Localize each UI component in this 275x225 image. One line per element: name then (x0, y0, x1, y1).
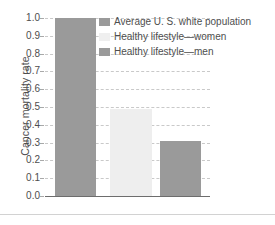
x-axis-baseline (45, 196, 210, 197)
bar-2 (110, 109, 152, 196)
y-axis-tick-label: 0.2 (26, 155, 40, 165)
legend-item-1: Average U. S. white population (99, 14, 271, 29)
legend-item-3: Healthy lifestyle—men (99, 44, 271, 59)
y-axis-tick-label: 0.5 (26, 102, 40, 112)
y-axis-tick-label: 0.1 (26, 173, 40, 183)
y-axis-tick-label: 0.4 (26, 120, 40, 130)
bar-3 (160, 141, 201, 196)
legend-swatch-icon (99, 48, 110, 56)
y-axis-tick-mark (40, 125, 44, 126)
legend-label: Average U. S. white population (114, 17, 251, 27)
y-axis-tick-label: 0.9 (26, 31, 40, 41)
legend-label: Healthy lifestyle—men (114, 47, 213, 57)
y-axis-tick-label: 0.8 (26, 49, 40, 59)
page-separator-rule (0, 214, 275, 215)
y-axis-tick-label: 0.3 (26, 138, 40, 148)
legend-label: Healthy lifestyle—women (114, 32, 226, 42)
y-axis-tick-label: 0.0 (26, 191, 40, 201)
legend-item-2: Healthy lifestyle—women (99, 29, 271, 44)
y-axis-tick-mark (40, 89, 44, 90)
cancer-mortality-bar-chart: Cancer mortality rate 0.00.10.20.30.40.5… (0, 0, 275, 225)
y-axis-tick-mark (40, 178, 44, 179)
y-axis-tick-mark (40, 143, 44, 144)
y-axis-tick-mark (40, 71, 44, 72)
y-axis-tick-mark (40, 54, 44, 55)
y-axis-tick-label: 1.0 (26, 13, 40, 23)
y-axis-tick-mark (40, 18, 44, 19)
chart-legend: Average U. S. white populationHealthy li… (99, 14, 271, 59)
y-axis-tick-mark (40, 196, 44, 197)
y-axis-tick-label: 0.6 (26, 84, 40, 94)
legend-swatch-icon (99, 33, 110, 41)
bar-1 (55, 18, 96, 196)
y-axis-tick-mark (40, 36, 44, 37)
y-axis-tick-mark (40, 160, 44, 161)
y-axis-tick-mark (40, 107, 44, 108)
y-axis-tick-label: 0.7 (26, 66, 40, 76)
legend-swatch-icon (99, 18, 110, 26)
